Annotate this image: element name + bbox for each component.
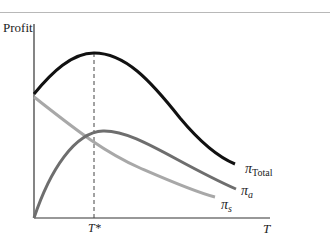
subscript-a: a bbox=[248, 189, 253, 200]
x-axis-label: T bbox=[263, 221, 270, 237]
profit-chart bbox=[0, 0, 330, 249]
subscript-s: s bbox=[228, 203, 232, 214]
subscript-total: Total bbox=[252, 167, 272, 178]
pi-symbol: π bbox=[221, 197, 228, 212]
pi-symbol: π bbox=[241, 183, 248, 198]
y-axis-label: Profit bbox=[3, 20, 33, 36]
curve-pi-total bbox=[34, 53, 235, 164]
pi-symbol: π bbox=[245, 161, 252, 176]
curve-pi-s bbox=[34, 97, 215, 197]
legend-pi-total: πTotal bbox=[245, 159, 272, 177]
t-star-label: T* bbox=[88, 221, 101, 236]
legend-pi-s: πs bbox=[221, 195, 232, 213]
legend-pi-a: πa bbox=[241, 181, 253, 199]
